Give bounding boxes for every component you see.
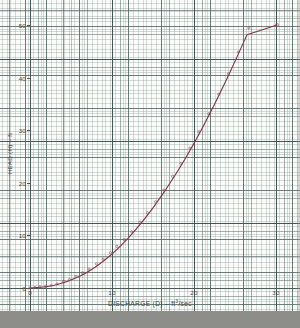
scan-edge-right bbox=[297, 0, 300, 311]
plot-area: 0 10 20 30 0 10 20 30 40 50 60 bbox=[0, 0, 300, 311]
x-axis-title-text: DISCHARGE (D) – ft bbox=[108, 300, 175, 307]
graph-paper-sheet: 0 10 20 30 0 10 20 30 40 50 60 bbox=[0, 0, 300, 311]
scan-border-bottom bbox=[0, 311, 300, 328]
data-point bbox=[163, 189, 165, 191]
data-point bbox=[95, 263, 97, 265]
data-point bbox=[154, 201, 156, 203]
data-point bbox=[34, 286, 36, 288]
x-axis-title-suffix: /sec bbox=[178, 300, 192, 307]
data-point bbox=[248, 27, 250, 29]
data-point bbox=[29, 287, 31, 289]
data-point bbox=[146, 212, 148, 214]
chart-screenshot: 0 10 20 30 0 10 20 30 40 50 60 bbox=[0, 0, 300, 328]
data-point bbox=[172, 175, 174, 177]
data-point bbox=[68, 279, 70, 281]
data-point bbox=[116, 245, 118, 247]
data-point bbox=[123, 239, 125, 241]
data-point bbox=[75, 275, 77, 277]
data-point bbox=[45, 285, 47, 287]
x-axis-title: DISCHARGE (D) – ft3/sec bbox=[0, 299, 300, 307]
data-point bbox=[218, 93, 220, 95]
data-point-endpoint bbox=[275, 23, 278, 26]
data-point bbox=[63, 281, 65, 283]
data-point bbox=[39, 286, 41, 288]
data-point-markers bbox=[0, 0, 300, 311]
data-point bbox=[109, 252, 111, 254]
data-point bbox=[88, 268, 90, 270]
data-point bbox=[139, 221, 141, 223]
data-point bbox=[180, 162, 182, 164]
data-point bbox=[189, 147, 191, 149]
data-point bbox=[208, 113, 210, 115]
y-axis-title: HEAD (H) – ft bbox=[6, 114, 13, 194]
data-point bbox=[237, 51, 239, 53]
data-point bbox=[227, 73, 229, 75]
data-point bbox=[102, 258, 104, 260]
data-point bbox=[50, 284, 52, 286]
data-point bbox=[56, 283, 58, 285]
data-point bbox=[131, 231, 133, 233]
data-point bbox=[81, 272, 83, 274]
data-point bbox=[198, 131, 200, 133]
